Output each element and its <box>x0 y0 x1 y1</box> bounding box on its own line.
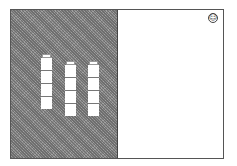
cube-block <box>41 58 52 71</box>
right-panel[interactable]: ☺ <box>118 10 223 158</box>
block-column-3[interactable] <box>88 61 99 116</box>
cube-block <box>65 65 76 78</box>
cube-block <box>88 78 99 91</box>
cube-block <box>88 104 99 116</box>
smiley-icon[interactable]: ☺ <box>208 13 218 23</box>
cube-block <box>65 104 76 116</box>
cube-block <box>65 91 76 104</box>
cube-block <box>65 78 76 91</box>
block-column-1[interactable] <box>41 54 52 109</box>
cube-block <box>41 71 52 84</box>
block-column-2[interactable] <box>65 61 76 116</box>
canvas-frame: ☺ <box>10 9 224 159</box>
cube-block <box>41 84 52 97</box>
cube-block <box>88 65 99 78</box>
left-panel <box>11 10 118 158</box>
cube-block <box>41 97 52 109</box>
cube-block <box>88 91 99 104</box>
